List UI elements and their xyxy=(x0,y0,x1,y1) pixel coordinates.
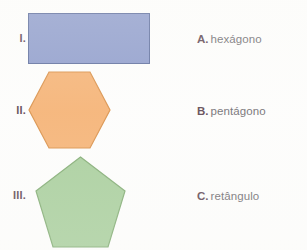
option-c-label: retângulo xyxy=(211,190,260,202)
option-a-letter: A. xyxy=(197,33,209,45)
roman-numeral-ii: II. xyxy=(2,104,26,116)
pentagon-shape xyxy=(35,156,126,249)
option-a-label: hexágono xyxy=(211,33,262,45)
option-b[interactable]: B. pentágono xyxy=(197,105,266,117)
option-c[interactable]: C. retângulo xyxy=(197,190,259,202)
option-b-label: pentágono xyxy=(211,105,266,117)
matching-exercise-page: I. II. III. A. hexágono B. pentágono C. … xyxy=(0,0,307,250)
hexagon-polygon xyxy=(29,72,110,148)
pentagon-polygon xyxy=(36,157,125,247)
option-a[interactable]: A. hexágono xyxy=(197,33,262,45)
option-b-letter: B. xyxy=(197,105,209,117)
roman-numeral-i: I. xyxy=(6,32,26,44)
hexagon-shape xyxy=(28,71,111,149)
hexagon-svg xyxy=(28,71,111,149)
pentagon-svg xyxy=(35,156,126,249)
rectangle-shape xyxy=(28,13,150,64)
roman-numeral-iii: III. xyxy=(0,189,26,201)
option-c-letter: C. xyxy=(197,190,209,202)
